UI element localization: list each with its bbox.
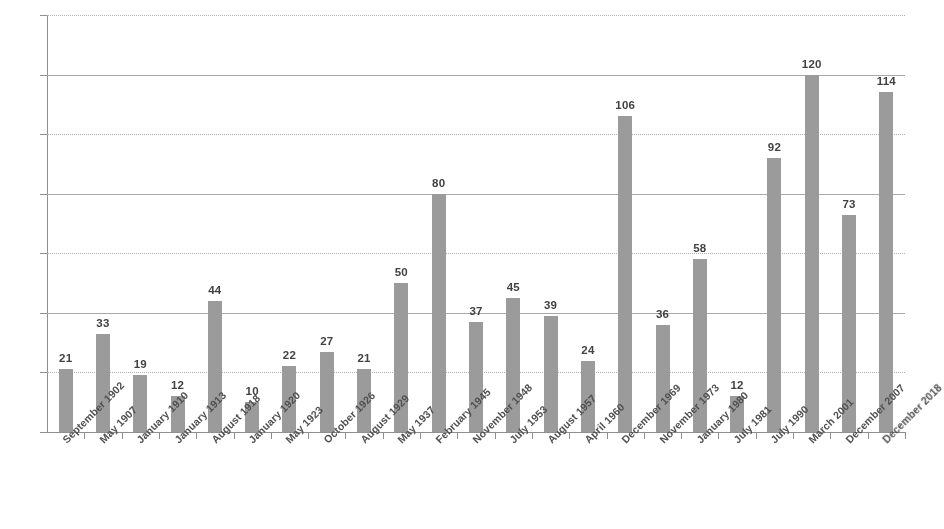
bar-value-label: 106 xyxy=(615,99,635,111)
bar xyxy=(767,158,781,432)
bar-value-label: 24 xyxy=(581,344,594,356)
bar-slot: 50 xyxy=(383,15,420,432)
bar-value-label: 27 xyxy=(320,335,333,347)
bar-value-label: 58 xyxy=(693,242,706,254)
bar-slot: 24 xyxy=(569,15,606,432)
bar xyxy=(656,325,670,432)
bar-value-label: 45 xyxy=(507,281,520,293)
bar-slot: 21 xyxy=(345,15,382,432)
bar-value-label: 39 xyxy=(544,299,557,311)
bar xyxy=(879,92,893,432)
bar-slot: 37 xyxy=(457,15,494,432)
plot-area: 020406080100120140 213319124410222721508… xyxy=(47,15,905,432)
y-axis-tick-mark xyxy=(40,194,47,195)
bar-slot: 92 xyxy=(756,15,793,432)
bar-value-label: 92 xyxy=(768,141,781,153)
bar-value-label: 114 xyxy=(877,75,896,87)
bar-slot: 114 xyxy=(868,15,905,432)
bar-slot: 36 xyxy=(644,15,681,432)
bar-slot: 33 xyxy=(84,15,121,432)
y-axis-tick-mark xyxy=(40,432,47,433)
bar xyxy=(320,352,334,432)
bar-value-label: 80 xyxy=(432,177,445,189)
bar-value-label: 120 xyxy=(802,58,822,70)
bar-slot: 80 xyxy=(420,15,457,432)
bar-value-label: 22 xyxy=(283,349,296,361)
bar-series: 2133191244102227215080374539241063658129… xyxy=(47,15,905,432)
bar-slot: 120 xyxy=(793,15,830,432)
bar-value-label: 73 xyxy=(842,198,855,210)
bar-slot: 58 xyxy=(681,15,718,432)
x-axis-category-labels: September 1902May 1907January 1910Januar… xyxy=(47,437,905,529)
bar-value-label: 33 xyxy=(96,317,109,329)
x-axis-tick-mark xyxy=(905,432,906,439)
bar xyxy=(618,116,632,432)
bar-value-label: 37 xyxy=(469,305,482,317)
bar-value-label: 19 xyxy=(134,358,147,370)
bar-slot: 73 xyxy=(830,15,867,432)
bar xyxy=(432,194,446,432)
bar-value-label: 21 xyxy=(357,352,370,364)
bar-slot: 21 xyxy=(47,15,84,432)
bar-slot: 27 xyxy=(308,15,345,432)
bar-value-label: 50 xyxy=(395,266,408,278)
bar-value-label: 44 xyxy=(208,284,221,296)
bar-slot: 22 xyxy=(271,15,308,432)
bar xyxy=(96,334,110,432)
bar-slot: 12 xyxy=(159,15,196,432)
bar-slot: 12 xyxy=(718,15,755,432)
y-axis-tick-mark xyxy=(40,134,47,135)
bar xyxy=(805,75,819,432)
bar-slot: 10 xyxy=(234,15,271,432)
bar-slot: 44 xyxy=(196,15,233,432)
y-axis-tick-mark xyxy=(40,372,47,373)
y-axis-tick-mark xyxy=(40,313,47,314)
bar-value-label: 21 xyxy=(59,352,72,364)
bar xyxy=(59,369,73,432)
bar-value-label: 36 xyxy=(656,308,669,320)
y-axis-tick-mark xyxy=(40,75,47,76)
bar-slot: 39 xyxy=(532,15,569,432)
bar xyxy=(133,375,147,432)
bar-slot: 106 xyxy=(607,15,644,432)
y-axis-tick-mark xyxy=(40,15,47,16)
bar-slot: 19 xyxy=(122,15,159,432)
y-axis-tick-mark xyxy=(40,253,47,254)
bar-slot: 45 xyxy=(495,15,532,432)
